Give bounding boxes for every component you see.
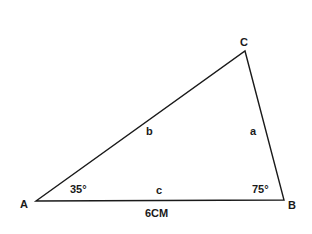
angle-label-a: 35° [70, 183, 87, 195]
side-label-c: c [156, 184, 162, 196]
vertex-label-a: A [20, 198, 28, 210]
vertex-label-c: C [240, 36, 248, 48]
side-length-c: 6CM [145, 207, 168, 219]
triangle-abc [36, 51, 284, 201]
angle-label-b: 75° [252, 183, 269, 195]
side-label-a: a [250, 125, 257, 137]
vertex-label-b: B [288, 199, 296, 211]
triangle-diagram: A B C a b c 6CM 35° 75° [0, 0, 312, 234]
side-label-b: b [146, 125, 153, 137]
